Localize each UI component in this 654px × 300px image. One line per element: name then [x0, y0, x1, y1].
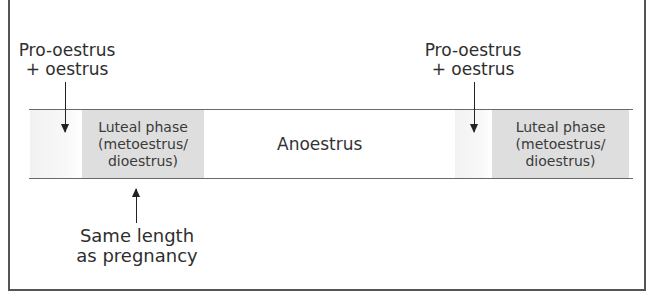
luteal-phase-band-1: Luteal phase (metoestrus/ dioestrus) [82, 110, 204, 178]
arrow-up-icon [136, 189, 137, 223]
annotation-line: + oestrus [418, 60, 528, 79]
pro-oestrus-annotation-1: Pro-oestrus + oestrus [12, 41, 122, 79]
luteal-phase-sublabel: (metoestrus/ [98, 136, 188, 153]
anoestrus-label: Anoestrus [277, 134, 362, 154]
annotation-line: as pregnancy [72, 246, 202, 266]
annotation-line: + oestrus [12, 60, 122, 79]
luteal-phase-label: Luteal phase [98, 119, 188, 136]
timeline-bottom-line [29, 178, 633, 179]
luteal-phase-band-2: Luteal phase (metoestrus/ dioestrus) [492, 110, 629, 178]
annotation-line: Pro-oestrus [12, 41, 122, 60]
pro-oestrus-annotation-2: Pro-oestrus + oestrus [418, 41, 528, 79]
annotation-line: Pro-oestrus [418, 41, 528, 60]
luteal-phase-sublabel: dioestrus) [525, 153, 595, 170]
luteal-phase-sublabel: (metoestrus/ [516, 136, 606, 153]
pregnancy-annotation: Same length as pregnancy [72, 226, 202, 266]
arrow-down-icon [65, 82, 66, 132]
luteal-phase-label: Luteal phase [516, 119, 606, 136]
timeline-top-line [29, 109, 633, 110]
annotation-line: Same length [72, 226, 202, 246]
luteal-phase-sublabel: dioestrus) [108, 153, 178, 170]
arrow-down-icon [474, 82, 475, 132]
pro-oestrus-band-1 [30, 110, 82, 178]
